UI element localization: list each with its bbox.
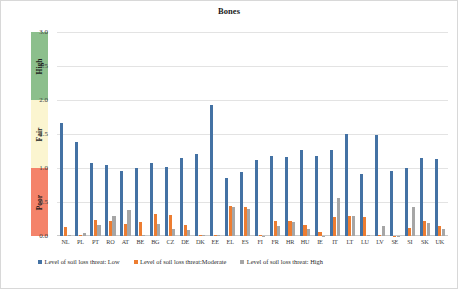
y-axis-tick: 2.0 xyxy=(39,96,48,104)
legend-item-3[interactable]: Level of soil loss threat: High xyxy=(240,258,323,265)
bar-ee-series-1 xyxy=(210,105,213,236)
bar-bg-series-3 xyxy=(157,224,160,236)
legend-label: Level of soil loss threat:Moderate xyxy=(140,258,226,265)
bar-lv-series-3 xyxy=(382,226,385,236)
x-axis-tick-de: DE xyxy=(178,238,193,245)
bar-lt-series-3 xyxy=(352,216,355,236)
bar-lu-series-2 xyxy=(363,217,366,236)
legend-swatch-2 xyxy=(134,260,138,264)
x-axis-tick-fi: FI xyxy=(253,238,268,245)
legend-label: Level of soil loss threat: Low xyxy=(45,258,120,265)
bar-es-series-3 xyxy=(247,209,250,236)
x-axis-tick-hu: HU xyxy=(298,238,313,245)
bar-ie-series-3 xyxy=(322,236,325,237)
x-axis-tick-lu: LU xyxy=(357,238,372,245)
bar-group-lv xyxy=(372,32,387,236)
legend-swatch-3 xyxy=(240,260,244,264)
x-axis-tick-pt: PT xyxy=(88,238,103,245)
bar-groups xyxy=(57,32,448,236)
bar-si-series-3 xyxy=(412,207,415,236)
bar-group-pl xyxy=(73,32,88,236)
bar-group-si xyxy=(402,32,417,236)
bar-group-de xyxy=(178,32,193,236)
bar-group-sk xyxy=(417,32,432,236)
bar-cz-series-3 xyxy=(172,229,175,236)
x-axis-tick-fr: FR xyxy=(268,238,283,245)
bar-se-series-1 xyxy=(390,171,393,236)
x-axis-tick-ro: RO xyxy=(103,238,118,245)
x-axis-tick-es: ES xyxy=(238,238,253,245)
bar-group-se xyxy=(387,32,402,236)
y-axis-tick: 1.5 xyxy=(39,130,48,138)
bar-group-pt xyxy=(88,32,103,236)
bar-group-be xyxy=(133,32,148,236)
x-axis-tick-cz: CZ xyxy=(163,238,178,245)
legend-item-2[interactable]: Level of soil loss threat:Moderate xyxy=(134,258,227,265)
bar-ro-series-3 xyxy=(112,216,115,236)
bar-lu-series-3 xyxy=(367,235,370,236)
bar-pl-series-3 xyxy=(83,233,86,236)
bar-group-lu xyxy=(357,32,372,236)
bar-group-nl xyxy=(58,32,73,236)
bar-hu-series-3 xyxy=(307,229,310,236)
bar-group-ro xyxy=(103,32,118,236)
x-axis-tick-it: IT xyxy=(327,238,342,245)
x-axis-tick-lv: LV xyxy=(372,238,387,245)
x-axis-tick-sk: SK xyxy=(417,238,432,245)
x-axis-tick-labels: NLPLPTROATBEBGCZDEDKEEELESFIFRHRHUIEITLT… xyxy=(57,238,448,245)
bar-ie-series-1 xyxy=(315,156,318,236)
bar-uk-series-3 xyxy=(442,229,445,236)
bar-group-bg xyxy=(148,32,163,236)
bar-group-es xyxy=(238,32,253,236)
bar-group-uk xyxy=(432,32,447,236)
x-axis-tick-bg: BG xyxy=(148,238,163,245)
bar-fr-series-3 xyxy=(277,226,280,236)
legend-label: Level of soil loss threat: High xyxy=(247,258,323,265)
bar-group-at xyxy=(118,32,133,236)
bar-be-series-2 xyxy=(139,222,142,236)
bar-fi-series-3 xyxy=(262,236,265,237)
x-axis-tick-el: EL xyxy=(223,238,238,245)
bar-si-series-1 xyxy=(405,168,408,236)
bar-dk-series-1 xyxy=(195,154,198,236)
bar-uk-series-1 xyxy=(435,159,438,236)
bar-group-hu xyxy=(298,32,313,236)
x-axis-tick-uk: UK xyxy=(432,238,447,245)
bar-pl-series-1 xyxy=(75,142,78,236)
bar-group-dk xyxy=(193,32,208,236)
x-axis-tick-se: SE xyxy=(387,238,402,245)
y-axis-tick: 3.0 xyxy=(39,28,48,36)
y-axis-tick: 1.0 xyxy=(39,164,48,172)
x-axis-tick-ie: IE xyxy=(312,238,327,245)
bar-at-series-3 xyxy=(127,210,130,236)
bar-group-fr xyxy=(268,32,283,236)
x-axis-tick-nl: NL xyxy=(58,238,73,245)
bar-dk-series-3 xyxy=(202,235,205,236)
bar-se-series-3 xyxy=(397,236,400,237)
y-axis-tick: 2.5 xyxy=(39,62,48,70)
plot-area xyxy=(57,32,448,236)
bar-hu-series-1 xyxy=(300,150,303,236)
legend-item-1[interactable]: Level of soil loss threat: Low xyxy=(38,258,120,265)
chart-container: Bones Status of preservation HighFairPoo… xyxy=(0,0,458,289)
bar-ee-series-3 xyxy=(217,235,220,236)
bar-group-ie xyxy=(312,32,327,236)
bar-group-ee xyxy=(208,32,223,236)
bar-group-el xyxy=(223,32,238,236)
chart-title: Bones xyxy=(0,6,458,16)
bar-lv-series-1 xyxy=(375,135,378,236)
bar-it-series-3 xyxy=(337,198,340,236)
bar-group-cz xyxy=(163,32,178,236)
chart-legend: Level of soil loss threat: LowLevel of s… xyxy=(38,258,448,265)
bar-nl-series-3 xyxy=(68,235,71,236)
bar-group-lt xyxy=(342,32,357,236)
x-axis-tick-hr: HR xyxy=(283,238,298,245)
bar-group-fi xyxy=(253,32,268,236)
x-axis-tick-lt: LT xyxy=(342,238,357,245)
bar-group-it xyxy=(327,32,342,236)
bar-be-series-3 xyxy=(142,235,145,236)
y-axis-tick: 0.5 xyxy=(39,198,48,206)
x-axis-tick-pl: PL xyxy=(73,238,88,245)
x-axis-tick-be: BE xyxy=(133,238,148,245)
bar-nl-series-1 xyxy=(60,123,63,236)
